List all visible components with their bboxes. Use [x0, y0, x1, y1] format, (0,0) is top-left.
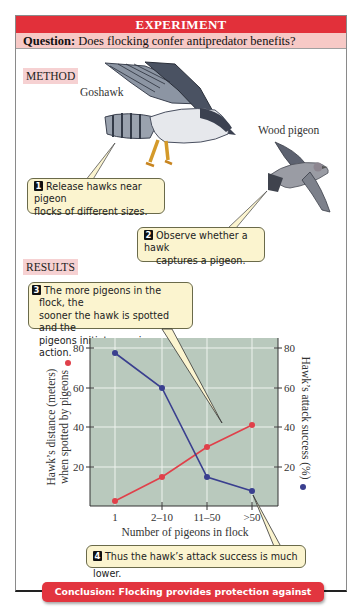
svg-text:40: 40 — [73, 421, 85, 433]
svg-text:2–10: 2–10 — [151, 511, 174, 523]
left-y-ticks: 80 60 40 20 — [73, 342, 85, 473]
svg-text:11–50: 11–50 — [193, 511, 221, 523]
svg-text:Hawk’s distance (meters): Hawk’s distance (meters) — [45, 368, 58, 485]
svg-text:60: 60 — [284, 382, 296, 394]
right-y-axis-label: Hawk’s attack success (%) — [299, 357, 312, 480]
distance-legend-dot — [65, 360, 71, 366]
results-step-4-callout: 4Thus the hawk’s attack success is much … — [86, 545, 306, 568]
svg-text:40: 40 — [284, 421, 296, 433]
x-tick-labels: 1 2–10 11–50 >50 — [112, 511, 261, 523]
svg-text:1: 1 — [112, 511, 118, 523]
results-chart: 80 60 40 20 80 60 40 20 1 2–10 11–50 >50… — [0, 0, 364, 610]
conclusion-banner: Conclusion: Flocking provides protection… — [42, 582, 324, 602]
x-axis-label: Number of pigeons in flock — [121, 526, 248, 539]
svg-text:20: 20 — [284, 461, 296, 473]
svg-text:60: 60 — [73, 382, 85, 394]
svg-text:Hawk’s attack success (%): Hawk’s attack success (%) — [299, 357, 312, 480]
svg-text:80: 80 — [73, 342, 85, 354]
success-legend-dot — [300, 484, 306, 490]
svg-text:80: 80 — [284, 342, 296, 354]
left-y-axis-label: Hawk’s distance (meters) when spotted by… — [45, 368, 71, 485]
svg-text:20: 20 — [73, 461, 85, 473]
svg-text:>50: >50 — [243, 511, 261, 523]
step-number-badge: 4 — [93, 551, 102, 561]
right-y-ticks: 80 60 40 20 — [284, 342, 296, 473]
svg-text:when spotted by pigeons: when spotted by pigeons — [58, 369, 71, 484]
